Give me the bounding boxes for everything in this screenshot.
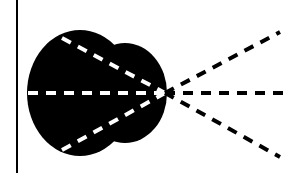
- ray-diagram: [0, 0, 291, 173]
- outer-ray-2: [165, 93, 280, 157]
- outer-rays: [165, 32, 291, 157]
- outer-ray-0: [165, 32, 280, 93]
